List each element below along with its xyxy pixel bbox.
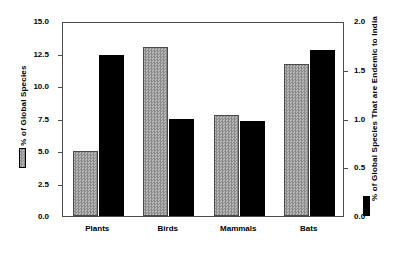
bar-bats-global-species	[284, 64, 309, 216]
left-tick-label: 0.0	[38, 212, 49, 222]
plot-area	[63, 23, 343, 216]
bar-mammals-global-species	[214, 115, 239, 216]
right-tick-label: 1.5	[354, 66, 365, 76]
left-tick-label: 15.0	[33, 17, 49, 27]
right-tick-label: 0.0	[354, 212, 365, 222]
bar-birds-endemic-to-india	[169, 119, 194, 217]
left-tick-mark	[58, 87, 62, 88]
category-label-birds: Birds	[128, 224, 208, 233]
right-tick-mark	[344, 168, 348, 169]
bar-plants-global-species	[73, 151, 98, 216]
category-label-plants: Plants	[57, 224, 137, 233]
left-tick-label: 10.0	[33, 82, 49, 92]
left-tick-label: 2.5	[38, 180, 49, 190]
category-axis-labels: PlantsBirdsMammalsBats	[62, 224, 344, 238]
bar-plants-endemic-to-india	[99, 55, 124, 216]
right-tick-label: 0.5	[354, 163, 365, 173]
right-tick-mark	[344, 71, 348, 72]
right-axis-ticks: 0.00.51.01.52.0	[345, 0, 385, 253]
bar-bats-endemic-to-india	[310, 50, 335, 216]
right-tick-label: 2.0	[354, 17, 365, 27]
right-tick-mark	[344, 120, 348, 121]
right-tick-label: 1.0	[354, 115, 365, 125]
left-tick-label: 5.0	[38, 147, 49, 157]
left-tick-mark	[58, 120, 62, 121]
left-tick-label: 12.5	[33, 50, 49, 60]
left-axis-ticks: 0.02.55.07.510.012.515.0	[12, 0, 57, 253]
left-tick-mark	[58, 185, 62, 186]
left-tick-mark	[58, 55, 62, 56]
bar-mammals-endemic-to-india	[240, 121, 265, 216]
left-tick-label: 7.5	[38, 115, 49, 125]
bar-birds-global-species	[143, 47, 168, 216]
left-tick-mark	[58, 152, 62, 153]
category-label-bats: Bats	[269, 224, 349, 233]
category-label-mammals: Mammals	[198, 224, 278, 233]
bar-chart-figure: % of Global Species % of Global Species …	[0, 0, 395, 253]
plot-frame	[62, 22, 344, 217]
